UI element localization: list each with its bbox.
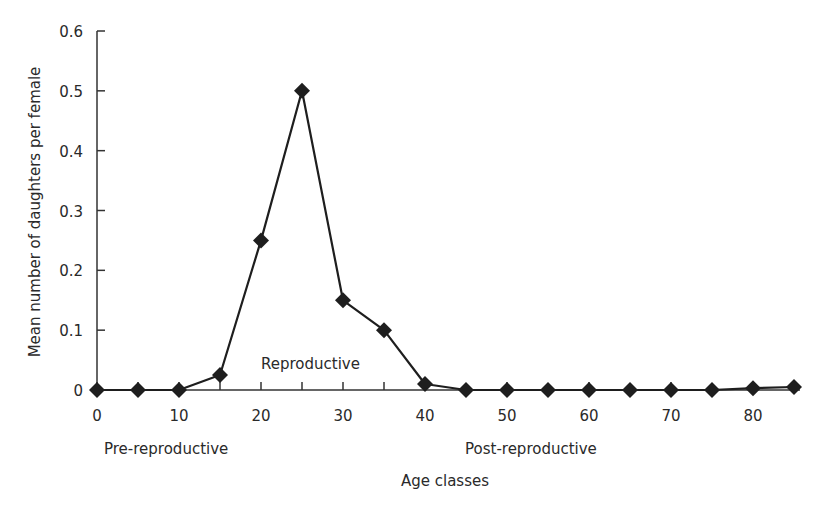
y-tick-label: 0.3: [59, 203, 83, 221]
data-point-20: [253, 232, 269, 248]
annotation-pre-reproductive: Pre-reproductive: [104, 440, 228, 458]
x-tick-label: 40: [415, 407, 434, 425]
data-point-25: [294, 83, 310, 99]
x-tick-label: 30: [333, 407, 352, 425]
series-line: [97, 91, 794, 390]
data-point-5: [130, 382, 146, 398]
data-point-60: [581, 382, 597, 398]
x-tick-label: 70: [661, 407, 680, 425]
data-point-10: [171, 382, 187, 398]
annotation-post-reproductive: Post-reproductive: [465, 440, 597, 458]
data-point-75: [704, 382, 720, 398]
y-tick-label: 0.5: [59, 83, 83, 101]
data-point-30: [335, 292, 351, 308]
data-point-65: [622, 382, 638, 398]
x-tick-label: 10: [169, 407, 188, 425]
y-tick-label: 0.1: [59, 322, 83, 340]
y-axis-title: Mean number of daughters per female: [26, 67, 44, 358]
data-point-50: [499, 382, 515, 398]
annotation-reproductive: Reproductive: [261, 355, 360, 373]
data-point-15: [212, 367, 228, 383]
x-tick-label: 80: [743, 407, 762, 425]
x-axis-title: Age classes: [401, 472, 489, 490]
y-tick-label: 0.4: [59, 143, 83, 161]
x-tick-label: 50: [497, 407, 516, 425]
y-tick-label: 0.6: [59, 23, 83, 41]
x-tick-label: 0: [92, 407, 102, 425]
data-point-80: [745, 380, 761, 396]
y-tick-label: 0: [73, 382, 83, 400]
y-tick-label: 0.2: [59, 262, 83, 280]
series-group: [89, 83, 802, 398]
chart: 00.10.20.30.40.50.601020304050607080 Mea…: [0, 0, 820, 512]
data-point-55: [540, 382, 556, 398]
x-tick-label: 20: [251, 407, 270, 425]
data-point-85: [786, 379, 802, 395]
data-point-45: [458, 382, 474, 398]
axes: 00.10.20.30.40.50.601020304050607080: [59, 23, 800, 425]
data-point-0: [89, 382, 105, 398]
x-tick-label: 60: [579, 407, 598, 425]
data-point-70: [663, 382, 679, 398]
